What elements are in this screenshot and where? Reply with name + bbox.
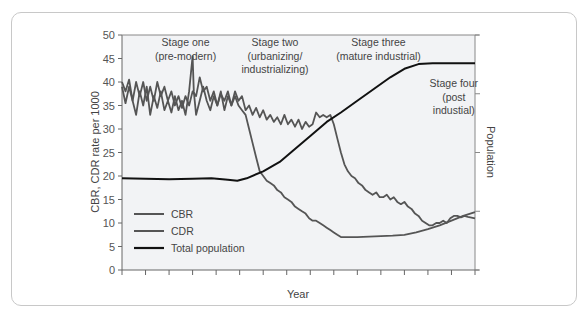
y-tick-label: 5 <box>109 241 115 253</box>
y-tick-label: 35 <box>103 100 115 112</box>
legend-label: CBR <box>171 208 194 220</box>
legend-label: Total population <box>171 242 245 254</box>
y-tick-label: 40 <box>103 76 115 88</box>
stage-label: Stage one(pre-modern) <box>155 36 216 62</box>
y-tick-label: 45 <box>103 53 115 65</box>
y-axis-title: CBR, CDR rate per 1000 <box>89 91 101 213</box>
y-tick-label: 0 <box>109 264 115 276</box>
y-tick-label: 50 <box>103 29 115 41</box>
y-tick-label: 25 <box>103 147 115 159</box>
y-tick-label: 10 <box>103 217 115 229</box>
y-tick-label: 15 <box>103 194 115 206</box>
x-axis-title: Year <box>287 288 310 300</box>
legend-label: CDR <box>171 225 194 237</box>
demographic-transition-chart: 05101520253035404550 Stage one(pre-moder… <box>0 0 588 317</box>
y-axis-right-title: Population <box>485 126 497 178</box>
y-tick-label: 20 <box>103 170 115 182</box>
y-tick-label: 30 <box>103 123 115 135</box>
